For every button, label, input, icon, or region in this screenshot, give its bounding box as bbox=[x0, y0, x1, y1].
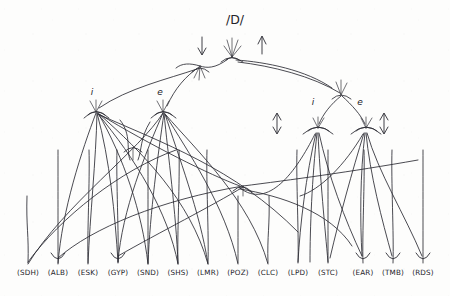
branch-node-right-i bbox=[303, 117, 333, 134]
root-node bbox=[221, 38, 243, 62]
branch-label-right-e: e bbox=[357, 97, 363, 107]
leaf-terminal: (CLC) bbox=[258, 196, 279, 277]
edge-root-to-left-cluster bbox=[99, 59, 228, 108]
leaf-label: (TMB) bbox=[382, 268, 404, 277]
leaf-label: (STC) bbox=[318, 268, 338, 277]
leaf-label: (SND) bbox=[137, 268, 159, 277]
leaf-label: (RDS) bbox=[412, 268, 434, 277]
branch-node-right-e bbox=[351, 117, 381, 134]
edge-root-to-right-cluster bbox=[236, 60, 365, 124]
branch-label-right-i: i bbox=[312, 97, 315, 107]
leaf-terminal: (TMB) bbox=[382, 150, 404, 277]
leaf-label: (SHS) bbox=[167, 268, 188, 277]
hand-drawn-graph: (SDH)(ALB)(ESK)(GYP)(SND)(SHS)(LMR)(POZ)… bbox=[0, 0, 450, 296]
leaf-stem bbox=[392, 150, 393, 263]
leaf-label: (SDH) bbox=[17, 268, 39, 277]
leaf-terminal: (STC) bbox=[318, 150, 338, 277]
leaf-stem bbox=[268, 196, 269, 263]
right-cluster-left-double-arrow bbox=[273, 113, 281, 134]
leaf-label: (EAR) bbox=[352, 268, 373, 277]
long-crossing-edges bbox=[28, 150, 418, 262]
leaf-terminal: (SHS) bbox=[167, 150, 188, 277]
leaf-stem bbox=[363, 150, 364, 263]
right-cluster-right-double-arrow bbox=[380, 113, 388, 134]
branch-node-left-i bbox=[84, 100, 109, 118]
leaf-label: (GYP) bbox=[108, 268, 129, 277]
leaf-label: (ALB) bbox=[48, 268, 68, 277]
leaf-terminal: (SDH) bbox=[17, 196, 39, 277]
branch-label-left-e: e bbox=[157, 87, 163, 97]
leaf-terminal: (LPD) bbox=[288, 150, 308, 277]
leaf-label: (ESK) bbox=[78, 268, 98, 277]
leaf-terminal: (RDS) bbox=[412, 150, 434, 277]
edges-right-e-to-leaves bbox=[300, 133, 422, 258]
leaf-terminal: (GYP) bbox=[108, 150, 129, 277]
leaf-label: (CLC) bbox=[258, 268, 279, 277]
leaf-label: (LPD) bbox=[288, 268, 308, 277]
leaf-stem bbox=[297, 150, 298, 263]
leaf-label: (LMR) bbox=[197, 268, 219, 277]
leaf-label: (POZ) bbox=[227, 268, 249, 277]
root-label: /D/ bbox=[226, 12, 245, 27]
branch-label-left-i: i bbox=[91, 87, 94, 97]
leaf-stem bbox=[178, 150, 179, 263]
leaf-stem bbox=[27, 196, 28, 263]
diagram-canvas: (SDH)(ALB)(ESK)(GYP)(SND)(SHS)(LMR)(POZ)… bbox=[0, 0, 450, 296]
root-up-arrow bbox=[258, 36, 266, 54]
root-down-arrow bbox=[198, 37, 206, 55]
leaf-terminal: (ESK) bbox=[78, 150, 98, 277]
